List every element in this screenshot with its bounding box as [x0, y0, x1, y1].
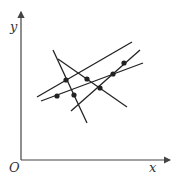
lines-group [37, 42, 143, 123]
point-dot [54, 93, 59, 98]
point-dot [84, 76, 89, 81]
origin-label: O [9, 160, 20, 175]
point-dot [63, 77, 68, 82]
point-dot [121, 60, 126, 65]
point-dot [97, 85, 102, 90]
line-3 [53, 50, 87, 123]
coordinate-diagram: y O x [0, 0, 179, 184]
line-5 [71, 50, 140, 111]
point-dot [71, 92, 76, 97]
point-dot [110, 71, 115, 76]
x-axis-label: x [149, 160, 157, 175]
y-axis-label: y [9, 19, 18, 34]
